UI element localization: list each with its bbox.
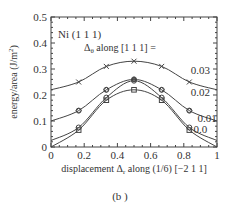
x-tick-label: 0.6 <box>144 149 158 161</box>
x-axis-label: displacement Δr along (1/6) [−2 1 1] <box>61 163 207 176</box>
y-tick-label: 0.2 <box>33 89 47 101</box>
energy-displacement-chart: 00.10.20.30.40.500.20.40.60.81 Ni (1 1 1… <box>0 0 233 204</box>
y-tick-label: 0 <box>42 141 48 153</box>
chart-title: Ni (1 1 1) <box>58 28 101 41</box>
legend-title: Δθ along [1 1 1] = <box>84 42 156 55</box>
y-axis-label: energy/area (J/m2) <box>7 45 20 119</box>
x-tick-label: 0.2 <box>77 149 91 161</box>
x-marker <box>159 64 164 69</box>
x-tick-label: 1 <box>214 149 220 161</box>
series-label: 0.03 <box>191 64 211 76</box>
y-tick-label: 0.4 <box>33 37 47 49</box>
x-marker <box>76 80 81 85</box>
y-tick-label: 0.3 <box>33 63 47 75</box>
y-tick-label: 0.5 <box>33 11 47 23</box>
x-marker <box>104 64 109 69</box>
series-labels: 0.030.020.010.0 <box>191 64 217 135</box>
y-tick-label: 0.1 <box>33 115 47 127</box>
x-tick-label: 0.8 <box>177 149 191 161</box>
data-markers <box>76 59 192 133</box>
x-tick-label: 0.4 <box>111 149 125 161</box>
x-tick-label: 0 <box>48 149 54 161</box>
figure-caption: (b ) <box>112 190 128 203</box>
x-marker <box>187 80 192 85</box>
series-label: 0.0 <box>194 123 208 135</box>
series-label: 0.02 <box>191 86 210 98</box>
series-line-0-0 <box>51 90 217 147</box>
